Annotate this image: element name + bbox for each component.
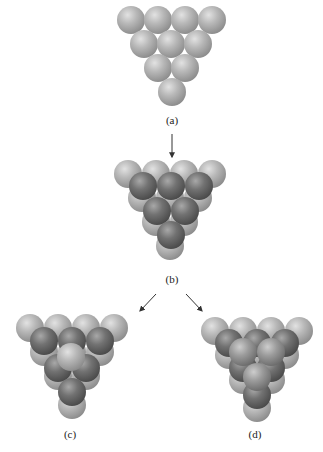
panel-a-label: (a) — [166, 114, 179, 127]
sphere-packing-diagram: (a) (b) — [0, 0, 323, 452]
arrow-b-to-c — [140, 294, 156, 311]
panel-c-label: (c) — [64, 428, 77, 441]
layer-a-top-sphere — [57, 343, 85, 371]
panel-d: (d) — [201, 317, 313, 441]
panel-a: (a) — [117, 6, 226, 127]
panel-d-label: (d) — [249, 428, 262, 441]
panel-b: (b) — [114, 160, 226, 286]
arrow-b-to-d — [186, 294, 202, 311]
panel-c: (c) — [16, 314, 128, 441]
layer-a-spheres — [117, 6, 226, 106]
panel-b-label: (b) — [166, 273, 179, 286]
